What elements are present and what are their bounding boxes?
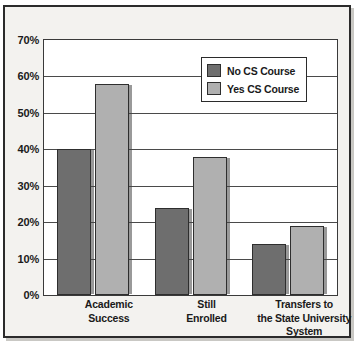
y-axis-tick-label: 60% — [18, 70, 39, 82]
bar — [57, 149, 91, 295]
y-axis-tick-label: 0% — [24, 289, 40, 301]
legend-item: Yes CS Course — [207, 81, 299, 96]
y-axis-tick-label: 30% — [18, 180, 39, 192]
bar-group — [57, 40, 129, 295]
legend-label-no-cs-course: No CS Course — [227, 65, 295, 77]
bar — [193, 157, 227, 295]
bar — [95, 84, 129, 295]
bar — [290, 226, 324, 295]
y-axis-tick-label: 50% — [18, 107, 39, 119]
y-axis-tick-label: 70% — [18, 34, 39, 46]
x-axis-category-labels: AcademicSuccessStillEnrolledTransfers to… — [43, 298, 338, 342]
y-axis-tick-label: 40% — [18, 143, 39, 155]
legend-label-yes-cs-course: Yes CS Course — [227, 83, 299, 95]
x-axis-category-label: Transfers tothe State UniversitySystem — [238, 298, 360, 339]
y-axis-tick-label: 20% — [18, 216, 39, 228]
legend-swatch-yes-cs-course — [207, 82, 221, 95]
bar-chart-figure: 0%10%20%30%40%50%60%70% AcademicSuccessS… — [3, 5, 351, 338]
legend-item: No CS Course — [207, 63, 299, 78]
chart-legend: No CS Course Yes CS Course — [201, 57, 307, 102]
bar — [155, 208, 189, 295]
y-axis-tick-label: 10% — [18, 253, 39, 265]
legend-swatch-no-cs-course — [207, 64, 221, 77]
bar — [252, 244, 286, 295]
